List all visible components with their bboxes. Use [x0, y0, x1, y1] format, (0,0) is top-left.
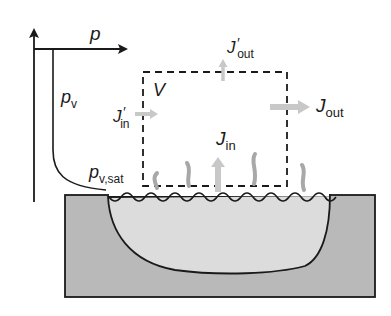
- flux-j-in: Jin: [211, 128, 236, 192]
- svg-text:J′out: J′out: [226, 35, 254, 61]
- evaporation-diagram: p pv pv,sat V J′in: [0, 0, 391, 316]
- label-pv: pv: [60, 87, 77, 111]
- volume-label-v: V: [153, 80, 167, 100]
- flux-j-out: Jout: [270, 95, 344, 120]
- vapor-wisp-icon: [302, 165, 304, 190]
- svg-text:J′in: J′in: [112, 104, 129, 131]
- svg-text:Jout: Jout: [315, 95, 344, 120]
- label-pv-sat: pv,sat: [88, 162, 124, 186]
- flux-j-out-prime: J′out: [219, 35, 255, 81]
- vapor-wisp-icon: [155, 173, 157, 188]
- vapor-wisps: [155, 154, 304, 190]
- flux-j-in-prime: J′in: [112, 104, 158, 131]
- vapor-wisp-icon: [187, 163, 189, 186]
- svg-text:Jin: Jin: [215, 128, 236, 153]
- axis-label-p: p: [89, 23, 101, 44]
- vapor-wisp-icon: [253, 154, 255, 184]
